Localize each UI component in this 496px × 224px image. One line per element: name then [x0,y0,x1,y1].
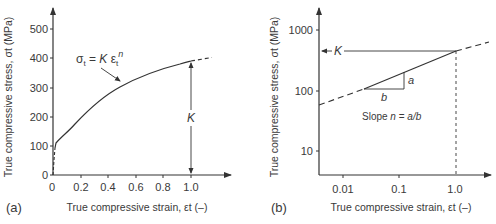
x-tick-0.8: 0.8 [155,181,170,193]
loglog-dashed-right [456,42,489,51]
a-label: a [408,74,414,86]
y-tick-1000: 1000 [289,24,313,36]
equation-label: σt = K εtn [76,49,123,68]
y-tick-500: 500 [30,23,48,35]
y-axis-label-a: True compressive stress, σt (MPa) [2,17,14,178]
y-tick-200: 200 [30,111,48,123]
x-tick-0.6: 0.6 [128,181,143,193]
x-tick-1.0-b: 1.0 [447,183,462,195]
y-tick-100-b: 100 [295,85,313,97]
K-label-a: K [187,111,196,125]
panel-b: 1000 100 10 0.01 0.1 1.0 a b Slope n = a… [268,8,491,215]
x-tick-0: 0 [49,181,55,193]
x-tick-0.01: 0.01 [332,183,353,195]
slope-label: Slope n = a/b [362,111,422,122]
curve-extrapolated-dashed [191,58,212,62]
x-tick-0.2: 0.2 [73,181,88,193]
x-tick-1.0: 1.0 [183,181,198,193]
y-tick-100: 100 [30,140,48,152]
loglog-dashed-left [319,89,364,105]
y-tick-300: 300 [30,82,48,94]
y-tick-400: 400 [30,52,48,64]
equation-pointer-arrow [101,68,120,81]
x-tick-0.1: 0.1 [391,183,406,195]
y-axis-label-b: True compressive stress, σt (MPa) [268,17,280,178]
y-tick-0: 0 [42,169,48,181]
panel-label-a: (a) [6,200,22,215]
panel-a: 500 400 300 200 100 0 0 0.2 0.4 0.6 0.8 … [2,8,231,215]
flow-curve [55,61,191,148]
panel-label-b: (b) [271,200,287,215]
b-label: b [381,91,387,103]
y-tick-10: 10 [301,145,313,157]
x-tick-0.4: 0.4 [100,181,115,193]
x-axis-label-b: True compressive strain, εt (–) [331,201,472,213]
x-axis-label-a: True compressive strain, εt (–) [67,201,208,213]
K-label-b: K [334,44,343,58]
figure: 500 400 300 200 100 0 0 0.2 0.4 0.6 0.8 … [0,0,496,224]
